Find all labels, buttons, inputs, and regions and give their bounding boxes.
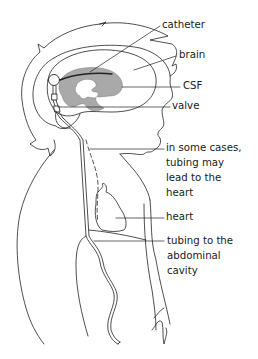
leader-brain xyxy=(134,56,176,70)
label-tubing-line1: tubing to the xyxy=(167,235,233,247)
tubing-tip xyxy=(118,342,120,344)
back-outline xyxy=(17,150,54,344)
hand-thumb xyxy=(154,308,164,318)
leader-lines xyxy=(58,26,180,241)
label-some-cases-line2: tubing may xyxy=(166,157,224,169)
label-some-cases-line1: in some cases, xyxy=(166,142,241,154)
hand xyxy=(152,321,167,344)
shunt-diagram: catheter brain CSF valve in some cases, … xyxy=(0,0,258,359)
label-tubing-line3: cavity xyxy=(167,265,198,277)
reservoir-bulb xyxy=(49,75,60,86)
label-valve: valve xyxy=(172,100,199,112)
label-some-cases-line3: lead to the xyxy=(166,172,221,184)
label-catheter: catheter xyxy=(162,19,205,31)
label-tubing-line2: abdominal xyxy=(167,250,221,262)
chest-inner xyxy=(144,204,156,330)
label-brain: brain xyxy=(179,49,205,61)
neck-front xyxy=(120,154,150,200)
heart-outline xyxy=(95,183,126,231)
label-some-cases-line4: heart xyxy=(166,187,193,199)
abdominal-outline xyxy=(76,236,88,336)
hair-tuft xyxy=(100,22,106,26)
label-heart: heart xyxy=(166,211,193,223)
label-csf: CSF xyxy=(183,80,202,92)
alternative-tubing-route xyxy=(86,140,98,222)
